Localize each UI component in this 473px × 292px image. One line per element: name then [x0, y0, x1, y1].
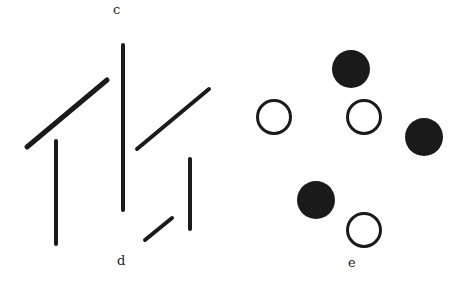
open-circle-open-left [258, 101, 291, 134]
open-circle-open-bottom [348, 214, 381, 247]
line-segment-diagonal-right [137, 89, 209, 149]
filled-circle-filled-top [332, 50, 370, 88]
open-circle-open-center [348, 101, 381, 134]
label-d: d [117, 253, 125, 268]
line-segment-short-diagonal [145, 218, 172, 240]
lines-panel [27, 45, 209, 244]
filled-circle-filled-right [405, 118, 443, 156]
label-c: c [113, 2, 120, 17]
label-e: e [348, 255, 356, 270]
line-segment-long-diagonal-left [27, 80, 107, 147]
circles-panel [258, 50, 444, 247]
figure-canvas: c d e [0, 0, 473, 292]
filled-circle-filled-bottom-left [297, 181, 335, 219]
